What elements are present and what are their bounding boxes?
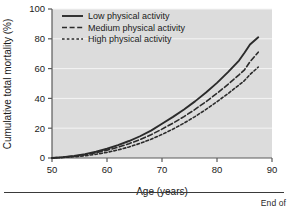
x-tick-label: 90 [267,164,278,175]
y-tick-label: 60 [34,63,45,74]
y-tick-label: 100 [29,3,45,14]
y-tick-label: 0 [40,152,45,163]
figure-container: 020406080100 5060708090 Age (years) Cumu… [0,0,288,207]
x-tick-label: 50 [47,164,58,175]
y-tick-label: 80 [34,33,45,44]
legend-label-0: Low physical activity [88,11,170,21]
legend-label-2: High physical activity [88,34,172,44]
caption-end-of: End of [261,198,286,207]
y-tick-label: 40 [34,93,45,104]
horizontal-divider [4,192,284,193]
legend-label-1: Medium physical activity [88,23,186,33]
x-tick-label: 60 [102,164,113,175]
x-tick-label: 80 [212,164,223,175]
x-axis-ticks [52,158,272,162]
y-tick-label: 20 [34,123,45,134]
y-axis-tick-labels: 020406080100 [29,3,45,163]
mortality-line-chart: 020406080100 5060708090 Age (years) Cumu… [0,0,288,207]
y-axis-title: Cumulative total mortality (%) [2,19,13,150]
x-tick-label: 70 [157,164,168,175]
x-axis-tick-labels: 5060708090 [47,164,278,175]
